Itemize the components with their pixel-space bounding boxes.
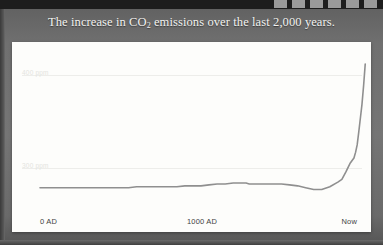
toolbar-chip[interactable] — [364, 0, 377, 8]
toolbar-chip[interactable] — [292, 0, 305, 8]
x-axis-tick-0ad: 0 AD — [40, 217, 57, 226]
co2-curve — [12, 42, 371, 232]
page-title-text-after: emissions over the last 2,000 years. — [151, 15, 335, 29]
chart-panel: 400 ppm 300 ppm 0 AD 1000 AD Now — [12, 42, 371, 232]
slide-bottom-edge — [0, 240, 383, 245]
plot-area: 400 ppm 300 ppm 0 AD 1000 AD Now — [12, 42, 371, 232]
x-axis-tick-1000ad: 1000 AD — [187, 217, 217, 226]
toolbar-chip[interactable] — [310, 0, 323, 8]
cropped-toolbar-strip[interactable] — [0, 0, 383, 9]
toolbar-chip[interactable] — [346, 0, 359, 8]
page-title: The increase in CO2 emissions over the l… — [0, 15, 383, 30]
page-title-text-before: The increase in CO — [48, 15, 147, 29]
slide-left-edge — [0, 0, 5, 245]
slide-screenshot: The increase in CO2 emissions over the l… — [0, 0, 383, 245]
toolbar-chip[interactable] — [328, 0, 341, 8]
toolbar-chip[interactable] — [274, 0, 287, 8]
x-axis-tick-now: Now — [341, 217, 357, 226]
